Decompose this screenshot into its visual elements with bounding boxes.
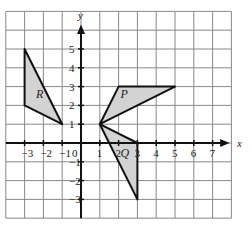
label-P: P: [119, 87, 128, 101]
y-tick-label: 3: [69, 81, 75, 93]
x-tick-label: 4: [153, 147, 159, 159]
y-tick-label: 1: [69, 118, 75, 130]
y-tick-label: −2: [69, 175, 81, 187]
x-tick-label: 6: [191, 147, 197, 159]
y-tick-label: −1: [69, 156, 81, 168]
x-tick-label: 3: [134, 147, 140, 159]
y-tick-label: −3: [69, 193, 81, 205]
coordinate-grid: xy−3−2−10123456754321−1−2−3RPQ: [0, 0, 252, 227]
x-tick-label: 7: [210, 147, 216, 159]
x-tick-label: 1: [97, 147, 103, 159]
y-axis-arrow-icon: [77, 25, 85, 34]
label-Q: Q: [120, 146, 129, 160]
x-tick-label: −3: [22, 147, 34, 159]
x-tick-label: 5: [172, 147, 178, 159]
x-tick-label: −2: [40, 147, 52, 159]
y-tick-label: 4: [69, 62, 75, 74]
y-tick-label: 5: [69, 43, 75, 55]
coordinate-diagram: xy−3−2−10123456754321−1−2−3RPQ: [0, 0, 252, 227]
y-axis-label: y: [77, 9, 83, 21]
x-axis-label: x: [236, 137, 242, 149]
label-R: R: [35, 87, 44, 101]
y-tick-label: 2: [69, 99, 75, 111]
x-axis-arrow-icon: [220, 139, 229, 147]
